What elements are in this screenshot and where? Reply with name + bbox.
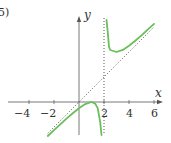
tick-label: 6 xyxy=(151,107,158,120)
x-tick-labels: −4 −2 2 4 6 xyxy=(14,107,158,120)
y-axis xyxy=(77,16,81,135)
tick-label: −4 xyxy=(14,107,30,120)
tick-label: 2 xyxy=(101,107,108,120)
y-axis-label: y xyxy=(83,8,91,22)
panel-label: 5) xyxy=(0,6,9,19)
tick-label: 4 xyxy=(126,107,133,120)
y-axis-arrow-icon xyxy=(77,16,81,22)
chart-canvas: 5) −4 −2 2 4 6 x y xyxy=(0,0,171,143)
curve-right-branch xyxy=(107,20,155,52)
tick-label: −2 xyxy=(40,107,56,120)
x-axis-label: x xyxy=(155,86,162,100)
x-axis-arrow-icon xyxy=(157,100,163,104)
